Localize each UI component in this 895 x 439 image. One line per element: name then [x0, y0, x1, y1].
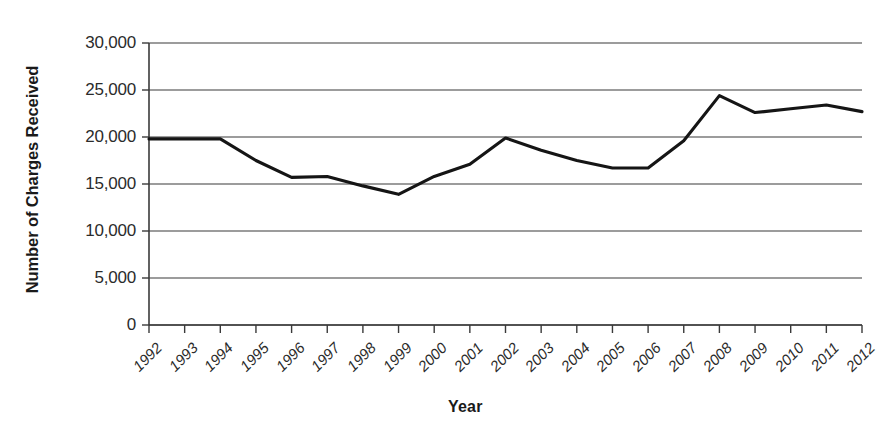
x-axis-title: Year [448, 398, 483, 416]
chart-container: Number of Charges Received 05,00010,0001… [0, 0, 895, 439]
data-line-series [149, 96, 862, 195]
